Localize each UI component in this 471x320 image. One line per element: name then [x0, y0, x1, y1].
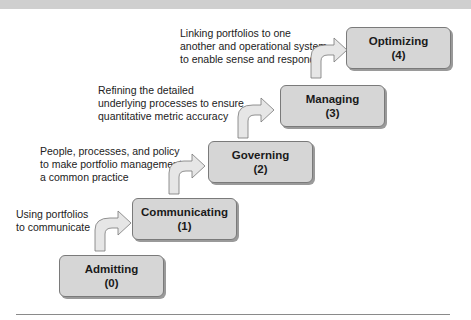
- stage-name: Optimizing: [369, 34, 428, 48]
- top-rule: [0, 0, 471, 9]
- stage-level: (4): [391, 48, 405, 62]
- description-line: another and operational system: [180, 40, 327, 53]
- description-line: People, processes, and policy: [40, 145, 182, 158]
- description-line: to make portfolio management: [40, 158, 182, 171]
- curved-arrow-icon: [308, 37, 348, 79]
- stage-admitting: Admitting (0): [59, 255, 164, 297]
- description-line: Refining the detailed: [98, 84, 244, 97]
- stage-optimizing: Optimizing (4): [346, 27, 451, 69]
- description-communicating: Using portfolios to communicate: [16, 208, 90, 234]
- bottom-rule: [16, 314, 450, 315]
- description-optimizing: Linking portfolios to one another and op…: [180, 27, 327, 66]
- stage-level: (1): [177, 219, 191, 233]
- description-line: underlying processes to ensure: [98, 97, 244, 110]
- description-line: to communicate: [16, 221, 90, 234]
- stage-name: Managing: [306, 92, 360, 106]
- description-line: quantitative metric accuracy: [98, 110, 244, 123]
- stage-level: (0): [104, 276, 118, 290]
- stage-name: Communicating: [141, 205, 228, 219]
- stage-communicating: Communicating (1): [132, 198, 237, 240]
- description-line: Using portfolios: [16, 208, 90, 221]
- stage-level: (3): [325, 106, 339, 120]
- curved-arrow-icon: [92, 210, 132, 252]
- description-managing: Refining the detailed underlying process…: [98, 84, 244, 123]
- description-governing: People, processes, and policy to make po…: [40, 145, 182, 184]
- stage-governing: Governing (2): [208, 141, 313, 183]
- description-line: a common practice: [40, 171, 182, 184]
- description-line: to enable sense and respond: [180, 53, 327, 66]
- stage-managing: Managing (3): [280, 85, 385, 127]
- stage-level: (2): [253, 162, 267, 176]
- description-line: Linking portfolios to one: [180, 27, 327, 40]
- curved-arrow-icon: [235, 97, 275, 139]
- stage-name: Governing: [232, 148, 290, 162]
- curved-arrow-icon: [166, 153, 206, 195]
- stage-name: Admitting: [85, 262, 139, 276]
